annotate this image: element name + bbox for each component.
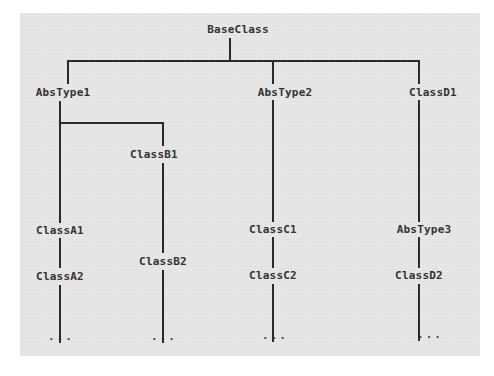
node-classa2: ClassA2 [36,271,84,283]
ellipsis-b: ... [151,330,177,343]
node-classc1: ClassC1 [249,224,297,236]
node-classd1: ClassD1 [409,87,457,99]
edge-to-classd1 [418,60,420,84]
node-classb1: ClassB1 [130,149,178,161]
edge-classa2-more [59,285,61,343]
edge-classb2-more [162,270,164,343]
ellipsis-d: ... [417,328,443,341]
edge-classd2-more [418,284,420,341]
edge-base-stem [229,38,231,62]
edge-classc1-classc2 [272,237,274,268]
edge-classa1-classa2 [59,238,61,268]
node-classb2: ClassB2 [139,256,187,268]
edge-classd1-abstype3 [418,100,420,222]
diagram-panel [20,13,480,356]
node-classa1: ClassA1 [36,225,84,237]
ellipsis-c: ... [262,329,288,342]
edge-to-classb1 [162,122,164,146]
edge-to-abstype1 [67,60,69,84]
node-classc2: ClassC2 [249,270,297,282]
ellipsis-a: ... [48,330,74,343]
edge-to-abstype2 [272,60,274,84]
edge-abstype1-branch [59,122,164,124]
edge-classc2-more [272,284,274,342]
edge-abstype3-classd2 [418,237,420,268]
edge-classb1-classb2 [162,163,164,253]
edge-abstype1-classa1 [59,101,61,223]
edge-abstype2-classc1 [272,100,274,222]
node-abstype3: AbsType3 [397,224,452,236]
node-classd2: ClassD2 [395,270,443,282]
node-baseclass: BaseClass [207,24,268,36]
node-abstype2: AbsType2 [258,87,313,99]
edge-top-horizontal [67,60,420,62]
node-abstype1: AbsType1 [36,87,91,99]
